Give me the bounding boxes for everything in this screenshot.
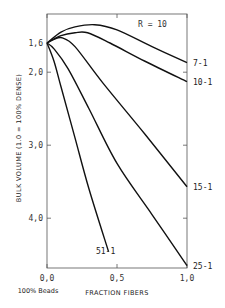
x-axis-sublabel: 100% Beads xyxy=(18,287,59,295)
x-tick-label: 0,5 xyxy=(110,274,125,283)
series-label-7-1: 7-1 xyxy=(193,59,208,68)
series-line-51-1 xyxy=(47,43,109,252)
y-tick-label: 4,0 xyxy=(29,214,44,223)
y-axis-title: BULK VOLUME (1.0 = 100% DENSE) xyxy=(15,74,23,202)
plot-border xyxy=(47,14,187,268)
series-label-15-1: 15-1 xyxy=(193,183,212,192)
y-axis-ticks: 1,62,03,04,0 xyxy=(29,39,187,223)
y-tick-label: 3,0 xyxy=(29,141,44,150)
x-axis-title: FRACTION FIBERS xyxy=(85,289,149,297)
series-lines xyxy=(47,25,187,266)
plot-frame xyxy=(47,14,187,268)
series-line-7-1 xyxy=(47,25,187,63)
series-labels: 7-110-115-125-151-1 xyxy=(96,59,212,271)
x-tick-label: 0,0 xyxy=(40,274,55,283)
series-line-25-1 xyxy=(47,43,187,266)
y-tick-label: 2,0 xyxy=(29,68,44,77)
series-label-51-1: 51-1 xyxy=(96,247,115,256)
r-annotation: R = 10 xyxy=(138,20,167,29)
series-label-10-1: 10-1 xyxy=(193,78,212,87)
bulk-volume-chart: 0,00,51,0 1,62,03,04,0 7-110-115-125-151… xyxy=(0,0,225,308)
y-tick-label: 1,6 xyxy=(29,39,44,48)
series-label-25-1: 25-1 xyxy=(193,262,212,271)
x-tick-label: 1,0 xyxy=(180,274,195,283)
series-line-10-1 xyxy=(47,32,187,82)
